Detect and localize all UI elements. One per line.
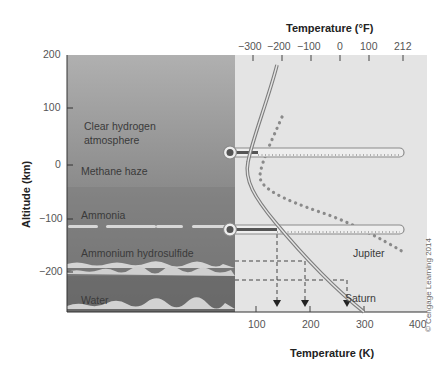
left-tick-label: 200 <box>43 48 61 60</box>
bottom-tick-label: 100 <box>248 318 266 330</box>
layer-label-methane-haze: Methane haze <box>81 165 148 177</box>
top-tick-label: −100 <box>297 40 321 52</box>
top-tick-label: 0 <box>337 40 343 52</box>
layer-label-ammonium-hydrosulfide: Ammonium hydrosulfide <box>81 247 194 259</box>
bottom-tick-label: 300 <box>356 318 374 330</box>
copyright-credit: © Cengage Learning 2014 <box>424 238 433 332</box>
layer-label-clear-hydrogen-2: atmosphere <box>84 134 139 146</box>
chart-graphics <box>0 0 441 370</box>
layer-label-ammonia: Ammonia <box>81 209 125 221</box>
left-tick-label: 100 <box>43 101 61 113</box>
left-tick-label: 0 <box>55 158 61 170</box>
thermometer-lower <box>224 223 405 236</box>
left-tick-label: −200 <box>39 265 63 277</box>
saturn-label: Saturn <box>345 292 376 304</box>
top-tick-label: 100 <box>360 40 378 52</box>
left-axis-title: Altitude (km) <box>20 161 32 228</box>
layer-label-water: Water <box>81 294 109 306</box>
top-tick-label: 212 <box>394 40 412 52</box>
top-tick-label: −200 <box>267 40 291 52</box>
ammonia-cloud <box>68 225 234 228</box>
bottom-tick-label: 200 <box>302 318 320 330</box>
top-tick-label: −300 <box>238 40 262 52</box>
bottom-axis-title: Temperature (K) <box>290 347 374 359</box>
left-tick-label: −100 <box>39 212 63 224</box>
layer-label-clear-hydrogen: Clear hydrogen <box>84 120 156 132</box>
jupiter-label: Jupiter <box>353 247 385 259</box>
top-axis-title: Temperature (°F) <box>286 22 373 34</box>
